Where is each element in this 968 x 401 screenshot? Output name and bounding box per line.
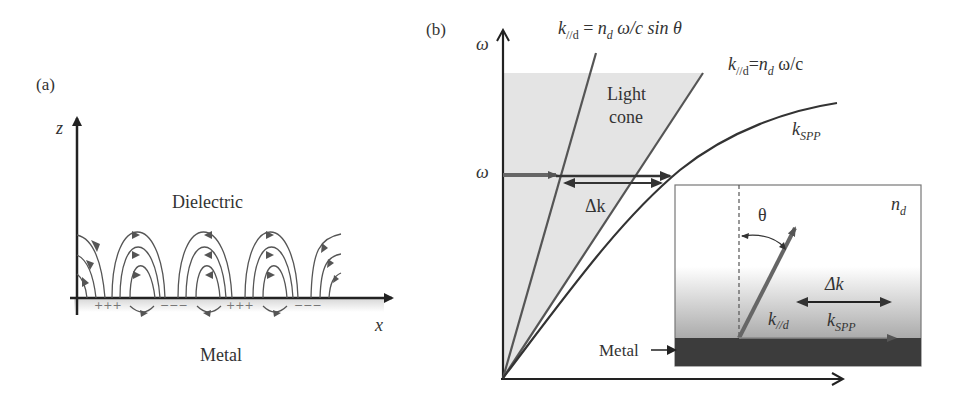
light-cone-label-1: Light: [607, 84, 646, 104]
inset-geometry: θ nd Δk k//d kSPP: [675, 185, 921, 366]
inset-metal-label: Metal: [599, 341, 639, 360]
omega-axis-label: ω: [476, 34, 489, 54]
z-axis-label: z: [55, 118, 63, 138]
charge-minus-2: −−−: [294, 299, 322, 312]
x-axis-label: x: [374, 315, 383, 335]
charge-plus-2: +++: [226, 299, 254, 312]
panel-b: (b) Light cone ω ω Δk k//d = nd ω/c sin …: [426, 18, 921, 380]
delta-k-label: Δk: [585, 196, 606, 216]
charge-plus-1: +++: [94, 299, 122, 312]
omega-marker-label: ω: [476, 162, 489, 182]
charge-minus-1: −−−: [160, 299, 188, 312]
light-line-equation: k//d=nd ω/c: [728, 54, 803, 78]
panel-a: (a) z x Dielectric Metal: [36, 75, 392, 365]
field-lines: [77, 232, 341, 298]
metal-layer: [675, 338, 921, 366]
panel-b-label: (b): [426, 20, 446, 39]
light-cone-label-2: cone: [609, 107, 643, 127]
steep-line-equation: k//d = nd ω/c sin θ: [558, 18, 682, 42]
figure: (a) z x Dielectric Metal: [0, 0, 968, 401]
metal-label: Metal: [200, 345, 242, 365]
dielectric-label: Dielectric: [172, 192, 243, 212]
inset-delta-k-label: Δk: [824, 274, 845, 294]
panel-a-label: (a): [36, 75, 55, 94]
theta-label: θ: [758, 205, 767, 225]
kspp-curve-label: kSPP: [792, 119, 821, 143]
